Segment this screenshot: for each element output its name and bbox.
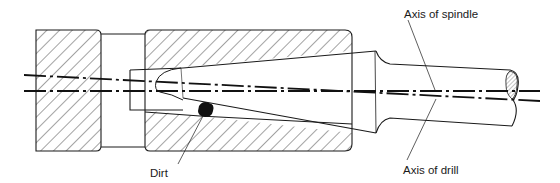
drill-misalignment-diagram: Axis of spindle Dirt Axis of drill bbox=[0, 0, 560, 183]
label-dirt: Dirt bbox=[150, 167, 169, 179]
label-axis-of-spindle: Axis of spindle bbox=[404, 8, 478, 20]
label-axis-of-drill: Axis of drill bbox=[403, 164, 459, 176]
leader-axis-of-spindle bbox=[408, 20, 435, 90]
leader-axis-of-drill bbox=[407, 99, 436, 160]
